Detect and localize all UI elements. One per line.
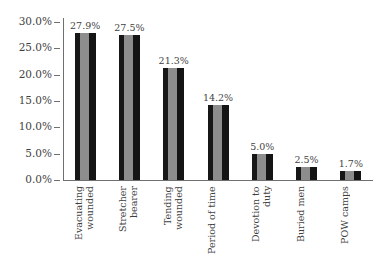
bar-value-label: 14.2% — [203, 92, 233, 103]
bar-chart: 30.0%25.0%20.0%15.0%10.0%5.0%0.0% 27.9%2… — [0, 0, 373, 270]
y-axis-tick-mark — [54, 127, 60, 128]
bar-group[interactable]: 1.7% — [340, 0, 361, 181]
bar-group[interactable]: 21.3% — [163, 0, 184, 181]
y-axis-tick-mark — [54, 48, 60, 49]
bar-value-label: 5.0% — [250, 141, 274, 152]
bar-group[interactable]: 27.9% — [75, 0, 96, 181]
bar[interactable] — [208, 105, 229, 180]
y-axis-tick-label: 20.0% — [19, 68, 52, 81]
y-axis-tick-mark — [54, 154, 60, 155]
bar[interactable] — [252, 154, 273, 180]
bars-container: 27.9%27.5%21.3%14.2%5.0%2.5%1.7% — [63, 0, 373, 181]
x-axis-category-label: Tending wounded — [163, 186, 185, 264]
bar[interactable] — [119, 35, 140, 180]
bar-value-label: 27.9% — [70, 20, 100, 31]
bar-group[interactable]: 27.5% — [119, 0, 140, 181]
y-axis-tick-label: 25.0% — [19, 41, 52, 54]
x-axis-category-label: Period of time — [207, 186, 229, 264]
x-axis-category-label: POW camps — [340, 186, 362, 264]
bar-value-label: 1.7% — [339, 158, 363, 169]
bar-value-label: 27.5% — [114, 22, 144, 33]
bar-group[interactable]: 2.5% — [296, 0, 317, 181]
x-axis-category-label: Devotion to duty — [251, 186, 273, 264]
bar[interactable] — [340, 171, 361, 180]
x-axis-category-label: Evacuating wounded — [74, 186, 96, 264]
y-axis-tick-label: 15.0% — [19, 94, 52, 107]
y-axis-tick-label: 0.0% — [25, 173, 52, 186]
bar-group[interactable]: 14.2% — [208, 0, 229, 181]
y-axis-tick-label: 30.0% — [19, 15, 52, 28]
y-axis-tick-label: 10.0% — [19, 120, 52, 133]
bar[interactable] — [163, 68, 184, 180]
x-axis-category-label: Buried men — [296, 186, 318, 264]
bar-group[interactable]: 5.0% — [252, 0, 273, 181]
y-axis-tick-mark — [54, 180, 60, 181]
y-axis-tick-mark — [54, 101, 60, 102]
bar-value-label: 2.5% — [294, 154, 318, 165]
x-axis-category-label: Stretcher bearer — [118, 186, 140, 264]
y-axis-tick-mark — [54, 75, 60, 76]
bar-value-label: 21.3% — [159, 55, 189, 66]
y-axis-tick-label: 5.0% — [25, 147, 52, 160]
bar[interactable] — [296, 167, 317, 180]
bar[interactable] — [75, 33, 96, 180]
y-axis-tick-mark — [54, 22, 60, 23]
